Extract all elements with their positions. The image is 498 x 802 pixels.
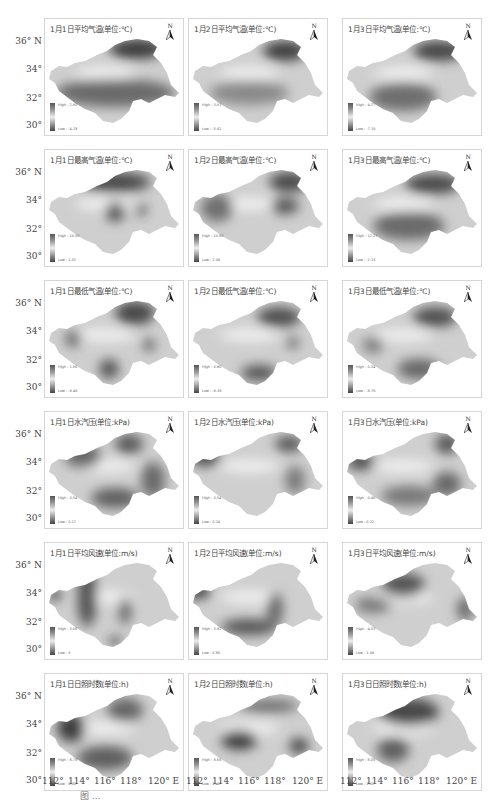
- field-blob: [75, 198, 135, 210]
- legend-color-bar: [194, 365, 199, 393]
- map-panel: 1月2日水汽压(单位:kPa)N High : 0.54 Low : 0.24: [188, 411, 328, 529]
- latitude-label: 34°: [6, 719, 42, 729]
- legend-high: High : 0.54: [202, 496, 221, 500]
- latitude-label: 30°: [6, 513, 42, 523]
- longitude-label: 118°: [418, 776, 440, 786]
- legend-low: Low : -8.76: [356, 389, 375, 393]
- color-legend: High : 3.91 Low : 0.86: [194, 627, 254, 655]
- color-legend: High : 0.54 Low : 0.17: [50, 496, 110, 524]
- legend-high: High : 10.56: [58, 234, 79, 238]
- latitude-label: 36° N: [6, 298, 42, 308]
- field-blob: [355, 597, 391, 613]
- field-blob: [413, 41, 465, 61]
- north-label: N: [311, 415, 316, 422]
- field-blob: [257, 307, 301, 327]
- legend-color-bar: [50, 103, 55, 131]
- north-label: N: [311, 22, 316, 29]
- map-panel: 1月2日最低气温(单位:℃)N High : 0.90 Low : -9.30: [188, 280, 328, 398]
- field-blob: [109, 637, 121, 645]
- field-blob: [65, 331, 81, 347]
- legend-color-bar: [50, 365, 55, 393]
- field-blob: [201, 194, 233, 222]
- longitude-label: 120° E: [292, 776, 323, 786]
- legend-low: Low : -5.61: [202, 127, 221, 131]
- field-blob: [219, 67, 279, 79]
- map-panel: 1月2日日照时数(单位:h)N High : 8.56 Low : 1.46: [188, 673, 328, 791]
- latitude-label: 32°: [6, 748, 42, 758]
- latitude-label: 34°: [6, 326, 42, 336]
- legend-low: Low : 0.17: [58, 520, 76, 524]
- field-blob: [379, 698, 439, 726]
- color-legend: High : 10.56 Low : 1.51: [50, 234, 110, 262]
- latitude-label: 30°: [6, 382, 42, 392]
- longitude-label: 120° E: [446, 776, 477, 786]
- map-panel: 1月1日水汽压(单位:kPa)N High : 0.54 Low : 0.17: [44, 411, 184, 529]
- field-blob: [413, 307, 457, 327]
- field-blob: [271, 198, 299, 214]
- longitude-label: 112°: [340, 776, 362, 786]
- legend-high: High : 8.56: [202, 758, 221, 762]
- latitude-label: 30°: [6, 775, 42, 785]
- legend-color-bar: [348, 496, 353, 524]
- color-legend: High : 3.63 Low : -5.61: [194, 103, 254, 131]
- north-label: N: [465, 22, 470, 29]
- legend-color-bar: [50, 627, 55, 655]
- latitude-label: 30°: [6, 644, 42, 654]
- legend-low: Low : -9.30: [202, 389, 221, 393]
- field-blob: [115, 301, 155, 325]
- color-legend: High : 4.03 Low : 1.09: [348, 627, 408, 655]
- map-panel: 1月3日最高气温(单位:℃)N High : 12.27 Low : -2.15: [342, 149, 482, 267]
- legend-low: Low : 0.22: [356, 520, 374, 524]
- latitude-label: 36° N: [6, 36, 42, 46]
- field-blob: [219, 460, 279, 472]
- longitude-label: 120° E: [148, 776, 179, 786]
- north-label: N: [465, 153, 470, 160]
- field-blob: [287, 337, 299, 349]
- north-label: N: [167, 677, 172, 684]
- latitude-label: 30°: [6, 251, 42, 261]
- longitude-label: 114°: [68, 776, 90, 786]
- color-legend: High : 0.54 Low : 0.24: [194, 496, 254, 524]
- field-blob: [57, 714, 85, 742]
- legend-high: High : 3.68: [58, 627, 77, 631]
- legend-low: Low : 1.51: [58, 258, 76, 262]
- latitude-label: 32°: [6, 617, 42, 627]
- north-label: N: [167, 546, 172, 553]
- legend-color-bar: [348, 627, 353, 655]
- longitude-label: 118°: [120, 776, 142, 786]
- field-blob: [269, 172, 309, 192]
- map-panel: 1月1日日照时数(单位:h)N High : 8.78 Low : 0.20: [44, 673, 184, 791]
- north-label: N: [167, 153, 172, 160]
- latitude-label: 34°: [6, 588, 42, 598]
- color-legend: High : 3.68 Low : 0: [50, 627, 110, 655]
- field-blob: [65, 444, 101, 468]
- field-blob: [373, 460, 433, 472]
- legend-high: High : 4.03: [356, 627, 375, 631]
- legend-high: High : 12.27: [356, 234, 377, 238]
- north-label: N: [311, 677, 316, 684]
- legend-high: High : 4.27: [356, 103, 375, 107]
- latitude-label: 32°: [6, 486, 42, 496]
- field-blob: [457, 597, 473, 621]
- latitude-label: 34°: [6, 195, 42, 205]
- field-blob: [105, 202, 125, 222]
- legend-high: High : 8.05: [356, 758, 375, 762]
- legend-low: Low : 1.09: [356, 651, 374, 655]
- north-label: N: [465, 546, 470, 553]
- legend-low: Low : -9.46: [58, 389, 77, 393]
- legend-low: Low : 0: [58, 651, 71, 655]
- north-label: N: [311, 284, 316, 291]
- map-panel: 1月1日最低气温(单位:℃)N High : 1.56 Low : -9.46: [44, 280, 184, 398]
- map-panel: 1月2日平均风速(单位:m/s)N High : 3.91 Low : 0.86: [188, 542, 328, 660]
- map-panel: 1月2日平均气温(单位:℃)N High : 3.63 Low : -5.61: [188, 18, 328, 136]
- latitude-label: 32°: [6, 355, 42, 365]
- map-panel: 1月3日平均气温(单位:℃)N High : 4.27 Low : -7.16: [342, 18, 482, 136]
- map-panel: 1月3日日照时数(单位:h)N High : 8.05 Low : 2.51: [342, 673, 482, 791]
- map-panel: 1月2日最高气温(单位:℃)N High : 10.88 Low : 2.09: [188, 149, 328, 267]
- north-label: N: [311, 153, 316, 160]
- field-blob: [143, 339, 155, 351]
- latitude-label: 34°: [6, 457, 42, 467]
- latitude-label: 36° N: [6, 429, 42, 439]
- legend-high: High : 0.46: [356, 496, 375, 500]
- legend-high: High : 1.56: [58, 365, 77, 369]
